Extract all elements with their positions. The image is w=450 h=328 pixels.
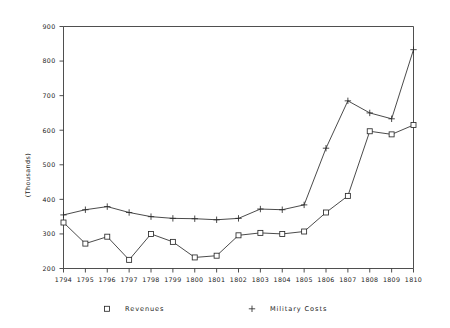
- y-tick-label: 900: [42, 23, 55, 30]
- x-tick-label: 1808: [361, 276, 378, 283]
- data-point-square-marker: [127, 257, 132, 262]
- line-chart: 200300400500600700800900 179417951796179…: [0, 0, 450, 328]
- data-point-square-marker: [170, 239, 175, 244]
- data-point-square-marker: [324, 210, 329, 215]
- data-point-square-marker: [411, 123, 416, 128]
- y-axis-title-text: (Thousands): [24, 153, 31, 198]
- data-point-square-marker: [389, 132, 394, 137]
- y-axis: 200300400500600700800900: [42, 23, 63, 272]
- y-tick-label: 300: [42, 230, 55, 237]
- data-point-square-marker: [61, 220, 66, 225]
- x-tick-label: 1809: [383, 276, 400, 283]
- x-tick-label: 1799: [164, 276, 181, 283]
- data-point-square-marker: [236, 233, 241, 238]
- x-tick-label: 1800: [186, 276, 203, 283]
- data-point-square-marker: [367, 129, 372, 134]
- y-tick-label: 700: [42, 92, 55, 99]
- series-polyline: [64, 50, 414, 220]
- chart-legend: RevenuesMilitary Costs: [105, 305, 328, 313]
- data-point-square-marker: [105, 234, 110, 239]
- y-tick-label: 500: [42, 161, 55, 168]
- x-tick-label: 1797: [120, 276, 137, 283]
- x-tick-label: 1803: [252, 276, 269, 283]
- x-tick-label: 1796: [99, 276, 116, 283]
- series-layer: [60, 46, 416, 262]
- series-revenues: [61, 123, 416, 263]
- data-point-square-marker: [214, 253, 219, 258]
- data-point-square-marker: [83, 241, 88, 246]
- x-tick-label: 1802: [230, 276, 247, 283]
- x-axis: 1794179517961797179817991800180118021803…: [55, 269, 422, 283]
- y-tick-label: 600: [42, 127, 55, 134]
- x-tick-label: 1798: [142, 276, 159, 283]
- data-point-square-marker: [280, 231, 285, 236]
- series-military-costs: [60, 46, 416, 222]
- data-point-square-marker: [149, 231, 154, 236]
- legend-item-revenues: Revenues: [105, 305, 165, 313]
- legend-item-military-costs: Military Costs: [249, 305, 327, 313]
- y-tick-label: 400: [42, 196, 55, 203]
- legend-square-marker: [105, 306, 110, 311]
- data-point-square-marker: [345, 193, 350, 198]
- x-tick-label: 1795: [77, 276, 94, 283]
- x-tick-label: 1801: [208, 276, 225, 283]
- x-tick-label: 1805: [295, 276, 312, 283]
- plot-frame: [64, 27, 414, 269]
- x-tick-label: 1806: [317, 276, 334, 283]
- x-tick-label: 1794: [55, 276, 72, 283]
- series-polyline: [64, 125, 414, 260]
- x-tick-label: 1810: [405, 276, 422, 283]
- y-tick-label: 800: [42, 57, 55, 64]
- x-tick-label: 1804: [274, 276, 291, 283]
- y-axis-title: (Thousands): [24, 153, 31, 198]
- data-point-square-marker: [258, 230, 263, 235]
- data-point-square-marker: [192, 255, 197, 260]
- data-point-square-marker: [302, 229, 307, 234]
- y-tick-label: 200: [42, 265, 55, 272]
- legend-label: Military Costs: [270, 305, 327, 313]
- x-tick-label: 1807: [339, 276, 356, 283]
- chart-container: 200300400500600700800900 179417951796179…: [0, 0, 450, 328]
- legend-label: Revenues: [125, 305, 164, 313]
